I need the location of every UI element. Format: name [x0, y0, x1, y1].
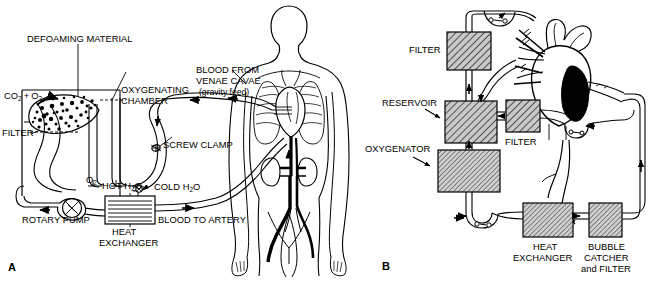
- label-defoaming-material: DEFOAMING MATERIAL: [27, 33, 133, 44]
- box-filter-mid: [506, 100, 540, 132]
- label-oxygenating-chamber-line2: CHAMBER: [121, 95, 168, 106]
- label-oxygenator: OXYGENATOR: [365, 143, 431, 154]
- label-filter-mid-b: FILTER: [505, 136, 537, 147]
- figure-root: DEFOAMING MATERIAL CO2+O2 FILTER OXYGENA…: [0, 0, 653, 283]
- svg-text:HOT H2O: HOT H2O: [102, 180, 142, 192]
- label-screw-clamp: SCREW CLAMP: [163, 139, 233, 150]
- label-gas-inlet: CO2+O2: [4, 90, 43, 102]
- diagram-svg: DEFOAMING MATERIAL CO2+O2 FILTER OXYGENA…: [0, 0, 653, 283]
- label-blood-to-artery: BLOOD TO ARTERY: [158, 214, 247, 225]
- label-filter-top-b: FILTER: [409, 44, 441, 55]
- label-reservoir: RESERVOIR: [382, 97, 437, 108]
- box-oxygenator: [438, 150, 500, 192]
- label-heat-exchanger-a-line2: EXCHANGER: [99, 237, 159, 248]
- label-bubble-catcher-line1: BUBBLE: [588, 241, 625, 252]
- label-heat-exchanger-b-line1: HEAT: [533, 241, 558, 252]
- label-rotary-pump: ROTARY PUMP: [22, 214, 90, 225]
- label-bubble-catcher-line3: and FILTER: [581, 263, 631, 274]
- panel-letter-b: B: [382, 260, 390, 272]
- label-blood-from-line3: (gravity feed): [199, 87, 249, 97]
- svg-text:COLD H2O: COLD H2O: [154, 181, 200, 193]
- svg-text:CO2+O2: CO2+O2: [4, 90, 43, 102]
- label-heat-exchanger-b-line2: EXCHANGER: [513, 252, 573, 263]
- label-filter-a: FILTER: [2, 127, 34, 138]
- panel-letter-a: A: [8, 261, 16, 273]
- label-heat-exchanger-a-line1: HEAT: [112, 226, 137, 237]
- label-oxygenating-chamber-line1: OXYGENATING: [121, 84, 189, 95]
- label-blood-from-line2: VENAE CAVAE: [196, 75, 261, 86]
- box-filter-top: [447, 32, 491, 70]
- box-heat-exchanger: [523, 203, 573, 237]
- label-hot-water: HOT H2O: [102, 180, 142, 192]
- label-cold-water: COLD H2O: [154, 181, 200, 193]
- box-reservoir: [445, 101, 497, 143]
- label-blood-from-line1: BLOOD FROM: [196, 64, 259, 75]
- box-bubble-catcher: [589, 203, 622, 237]
- label-bubble-catcher-line2: CATCHER: [584, 252, 629, 263]
